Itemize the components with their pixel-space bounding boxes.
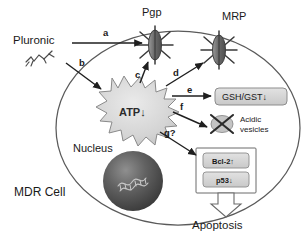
- arrow-b-label: b: [79, 57, 85, 68]
- mdr-cell-diagram: MDR Cell Pluronic Pgp MRP: [0, 0, 307, 233]
- arrow-a-label: a: [103, 27, 109, 38]
- pluronic-label: Pluronic: [13, 34, 55, 46]
- acidic-vesicle-icon: [211, 115, 233, 133]
- p53-label: p53↓: [216, 176, 233, 185]
- apoptosis-regulator-panel: Bcl-2↑ p53↓: [196, 148, 256, 193]
- mdr-cell-label: MDR Cell: [14, 185, 65, 199]
- acidic-vesicles-label-line2: vesicles: [240, 125, 268, 134]
- gsh-gst-box: GSH/GST↓: [215, 88, 287, 105]
- arrow-c-label: c: [135, 69, 140, 80]
- arrow-e-label: e: [187, 84, 192, 95]
- atp-label: ATP↓: [119, 106, 146, 118]
- bcl2-label: Bcl-2↑: [212, 157, 234, 166]
- arrow-g-label: g?: [164, 127, 176, 138]
- acidic-vesicles-label-line1: Acidic: [240, 115, 261, 124]
- pgp-label: Pgp: [142, 6, 162, 18]
- polymer-chain-squiggle-icon: [26, 51, 54, 66]
- gsh-gst-label: GSH/GST↓: [222, 92, 267, 102]
- nucleus-label: Nucleus: [73, 142, 113, 154]
- mrp-label: MRP: [222, 10, 246, 22]
- apoptosis-label: Apoptosis: [192, 219, 243, 231]
- arrow-d-label: d: [173, 67, 179, 78]
